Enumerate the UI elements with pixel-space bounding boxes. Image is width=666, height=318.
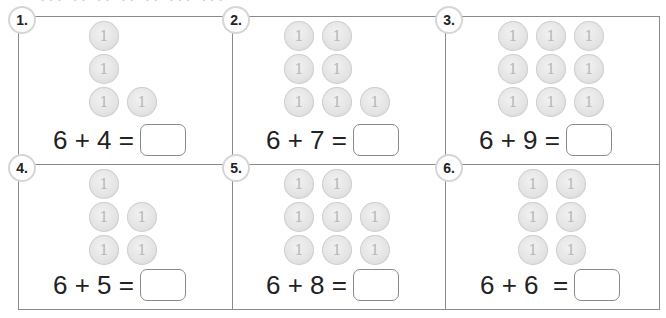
equation: 6 + 4 = <box>53 124 186 156</box>
coin-icon: 1 <box>498 54 528 84</box>
coin-icon: 1 <box>89 202 119 232</box>
coin-icon: 1 <box>322 54 352 84</box>
coin-icon: 1 <box>127 235 157 265</box>
problem-cell-4: 4. 1 11 11 6 + 5 = <box>19 165 233 309</box>
answer-box[interactable] <box>353 269 399 301</box>
coin-icon: 1 <box>556 235 586 265</box>
worksheet-grid: 1. 1 1 11 6 + 4 = 2. 11 11 111 6 + 7 = 3… <box>18 16 660 310</box>
coin-icon: 1 <box>284 87 314 117</box>
coin-icon: 1 <box>536 87 566 117</box>
coin-icon: 1 <box>127 202 157 232</box>
coin-icon: 1 <box>518 235 548 265</box>
coin-icon: 1 <box>556 202 586 232</box>
problem-number-badge: 1. <box>8 6 36 34</box>
problem-cell-6: 6. 11 11 11 6 + 6 = <box>446 165 659 309</box>
problem-number-badge: 4. <box>8 154 36 182</box>
answer-box[interactable] <box>353 124 399 156</box>
equation: 6 + 9 = <box>479 124 612 156</box>
answer-box[interactable] <box>140 124 186 156</box>
problem-cell-3: 3. 111 111 111 6 + 9 = <box>446 17 659 165</box>
coin-icon: 1 <box>322 169 352 199</box>
coin-icon: 1 <box>574 87 604 117</box>
equation: 6 + 8 = <box>266 269 399 301</box>
answer-box[interactable] <box>574 269 620 301</box>
coin-icon: 1 <box>574 21 604 51</box>
coin-group: 11 11 111 <box>284 21 390 117</box>
answer-box[interactable] <box>566 124 612 156</box>
coin-icon: 1 <box>322 21 352 51</box>
problem-cell-2: 2. 11 11 111 6 + 7 = <box>233 17 446 165</box>
coin-icon: 1 <box>536 21 566 51</box>
coin-group: 11 11 11 <box>518 169 586 265</box>
equation-expression: 6 + 4 = <box>53 125 134 156</box>
coin-icon: 1 <box>498 21 528 51</box>
coin-icon: 1 <box>322 202 352 232</box>
equation-expression: 6 + 6 = <box>480 270 568 301</box>
coin-icon: 1 <box>360 202 390 232</box>
equation: 6 + 7 = <box>266 124 399 156</box>
coin-icon: 1 <box>89 87 119 117</box>
equation-expression: 6 + 7 = <box>266 125 347 156</box>
coin-icon: 1 <box>284 169 314 199</box>
equation-expression: 6 + 8 = <box>266 270 347 301</box>
problem-cell-5: 5. 11 111 111 6 + 8 = <box>233 165 446 309</box>
coin-group: 11 111 111 <box>284 169 390 265</box>
problem-number-badge: 3. <box>435 6 463 34</box>
coin-icon: 1 <box>89 54 119 84</box>
equation: 6 + 5 = <box>53 269 186 301</box>
coin-icon: 1 <box>518 169 548 199</box>
coin-icon: 1 <box>284 202 314 232</box>
coin-icon: 1 <box>498 87 528 117</box>
coin-icon: 1 <box>360 235 390 265</box>
coin-icon: 1 <box>89 21 119 51</box>
coin-group: 111 111 111 <box>498 21 604 117</box>
problem-number-badge: 5. <box>222 154 250 182</box>
problem-number-badge: 6. <box>435 154 463 182</box>
answer-box[interactable] <box>140 269 186 301</box>
coin-icon: 1 <box>574 54 604 84</box>
coin-icon: 1 <box>284 21 314 51</box>
equation-expression: 6 + 9 = <box>479 125 560 156</box>
coin-group: 1 11 11 <box>89 169 157 265</box>
coin-icon: 1 <box>322 235 352 265</box>
coin-icon: 1 <box>284 54 314 84</box>
coin-group: 1 1 11 <box>89 21 157 117</box>
coin-icon: 1 <box>536 54 566 84</box>
coin-icon: 1 <box>127 87 157 117</box>
equation: 6 + 6 = <box>480 269 620 301</box>
problem-number-badge: 2. <box>222 6 250 34</box>
coin-icon: 1 <box>556 169 586 199</box>
coin-icon: 1 <box>322 87 352 117</box>
coin-icon: 1 <box>89 169 119 199</box>
equation-expression: 6 + 5 = <box>53 270 134 301</box>
coin-icon: 1 <box>360 87 390 117</box>
coin-icon: 1 <box>284 235 314 265</box>
coin-icon: 1 <box>518 202 548 232</box>
problem-cell-1: 1. 1 1 11 6 + 4 = <box>19 17 233 165</box>
coin-icon: 1 <box>89 235 119 265</box>
cutoff-heading-text: ··· ·· ·· ·· ·· ··· ··· <box>40 0 226 9</box>
